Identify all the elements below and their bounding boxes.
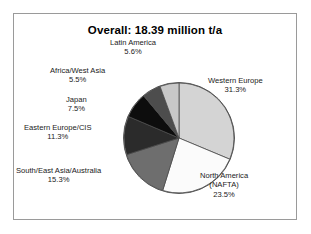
- slice-label-eastern-europe-cis: Eastern Europe/CIS 11.3%: [24, 123, 92, 142]
- slice-label-africa-west-asia-percent: 5.5%: [50, 75, 105, 84]
- slice-label-north-america: North America (NAFTA) 23.5%: [200, 171, 248, 199]
- slice-label-north-america-subname: (NAFTA): [200, 180, 248, 189]
- slice-label-south-east-asia-australia-percent: 15.3%: [16, 175, 101, 184]
- slice-label-eastern-europe-cis-name: Eastern Europe/CIS: [24, 123, 92, 132]
- slice-label-western-europe-name: Western Europe: [208, 76, 263, 85]
- slice-label-japan-name: Japan: [66, 95, 87, 104]
- slice-label-latin-america-name: Latin America: [110, 38, 156, 47]
- slice-label-africa-west-asia: Africa/West Asia 5.5%: [50, 66, 105, 85]
- slice-label-japan: Japan 7.5%: [66, 95, 87, 114]
- figure-frame: Overall: 18.39 million t/a Latin America…: [13, 13, 297, 220]
- slice-label-north-america-percent: 23.5%: [200, 190, 248, 199]
- slice-label-latin-america-percent: 5.6%: [110, 47, 156, 56]
- slice-label-south-east-asia-australia: South/East Asia/Australia 15.3%: [16, 166, 101, 185]
- slice-label-north-america-name: North America: [200, 171, 248, 180]
- slice-label-western-europe: Western Europe 31.3%: [208, 76, 263, 95]
- slice-label-eastern-europe-cis-percent: 11.3%: [24, 132, 92, 141]
- slice-label-japan-percent: 7.5%: [66, 104, 87, 113]
- slice-label-latin-america: Latin America 5.6%: [110, 38, 156, 57]
- slice-label-western-europe-percent: 31.3%: [208, 85, 263, 94]
- slice-label-south-east-asia-australia-name: South/East Asia/Australia: [16, 166, 101, 175]
- slice-label-africa-west-asia-name: Africa/West Asia: [50, 66, 105, 75]
